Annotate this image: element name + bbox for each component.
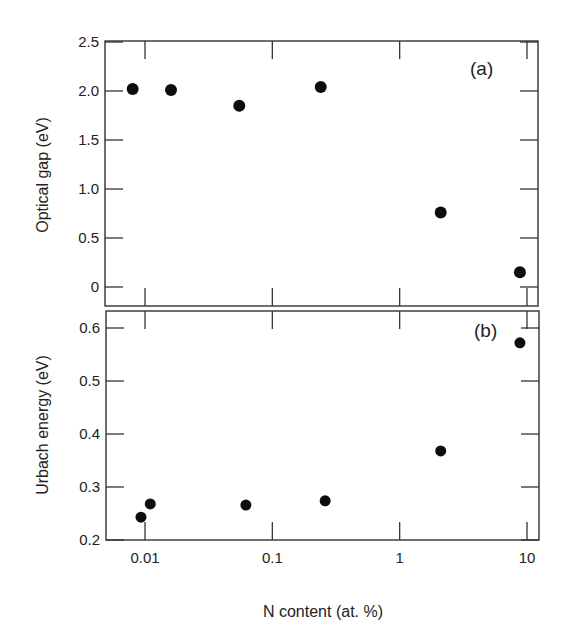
y-tick-label: 0.4 xyxy=(79,425,100,442)
panel-b-label: (b) xyxy=(474,320,497,341)
y-tick-label: 0.2 xyxy=(79,531,100,548)
panel-b-y-ticks: 0.20.30.40.50.6 xyxy=(79,319,539,548)
data-point xyxy=(165,84,177,96)
panel-b: 0.20.30.40.50.6 (b) Urbach energy (eV) xyxy=(34,311,539,548)
x-axis-tick-labels: 0.010.1110 xyxy=(130,549,535,566)
y-tick-label: 0.3 xyxy=(79,478,100,495)
x-axis-title: N content (at. %) xyxy=(263,603,383,620)
panel-a: 00.51.01.52.02.5 (a) Optical gap (eV) xyxy=(34,33,538,306)
panel-a-data-points xyxy=(127,81,526,278)
data-point xyxy=(233,100,245,112)
data-point xyxy=(320,495,331,506)
panel-a-label: (a) xyxy=(470,58,493,79)
panel-a-x-ticks xyxy=(145,41,527,306)
figure: 00.51.01.52.02.5 (a) Optical gap (eV) 0.… xyxy=(0,0,564,637)
x-tick-label: 0.01 xyxy=(130,549,159,566)
data-point xyxy=(127,83,139,95)
panel-a-frame xyxy=(105,41,538,306)
y-tick-label: 2.0 xyxy=(78,82,99,99)
data-point xyxy=(435,207,447,219)
data-point xyxy=(135,512,146,523)
panel-b-frame xyxy=(106,311,539,540)
x-tick-label: 10 xyxy=(519,549,536,566)
data-point xyxy=(435,445,446,456)
x-tick-label: 1 xyxy=(395,549,403,566)
y-tick-label: 1.0 xyxy=(78,180,99,197)
panel-b-x-ticks xyxy=(145,311,527,540)
y-tick-label: 0.5 xyxy=(79,372,100,389)
data-point xyxy=(514,266,526,278)
panel-b-data-points xyxy=(135,337,525,522)
data-point xyxy=(514,337,525,348)
y-tick-label: 0.5 xyxy=(78,229,99,246)
y-axis-title-urbach-energy: Urbach energy (eV) xyxy=(34,355,51,495)
data-point xyxy=(145,498,156,509)
y-tick-label: 2.5 xyxy=(78,33,99,50)
x-tick-label: 0.1 xyxy=(262,549,283,566)
y-tick-label: 1.5 xyxy=(78,131,99,148)
data-point xyxy=(315,81,327,93)
data-point xyxy=(240,500,251,511)
y-tick-label: 0.6 xyxy=(79,319,100,336)
y-axis-title-optical-gap: Optical gap (eV) xyxy=(34,117,51,233)
y-tick-label: 0 xyxy=(91,278,99,295)
